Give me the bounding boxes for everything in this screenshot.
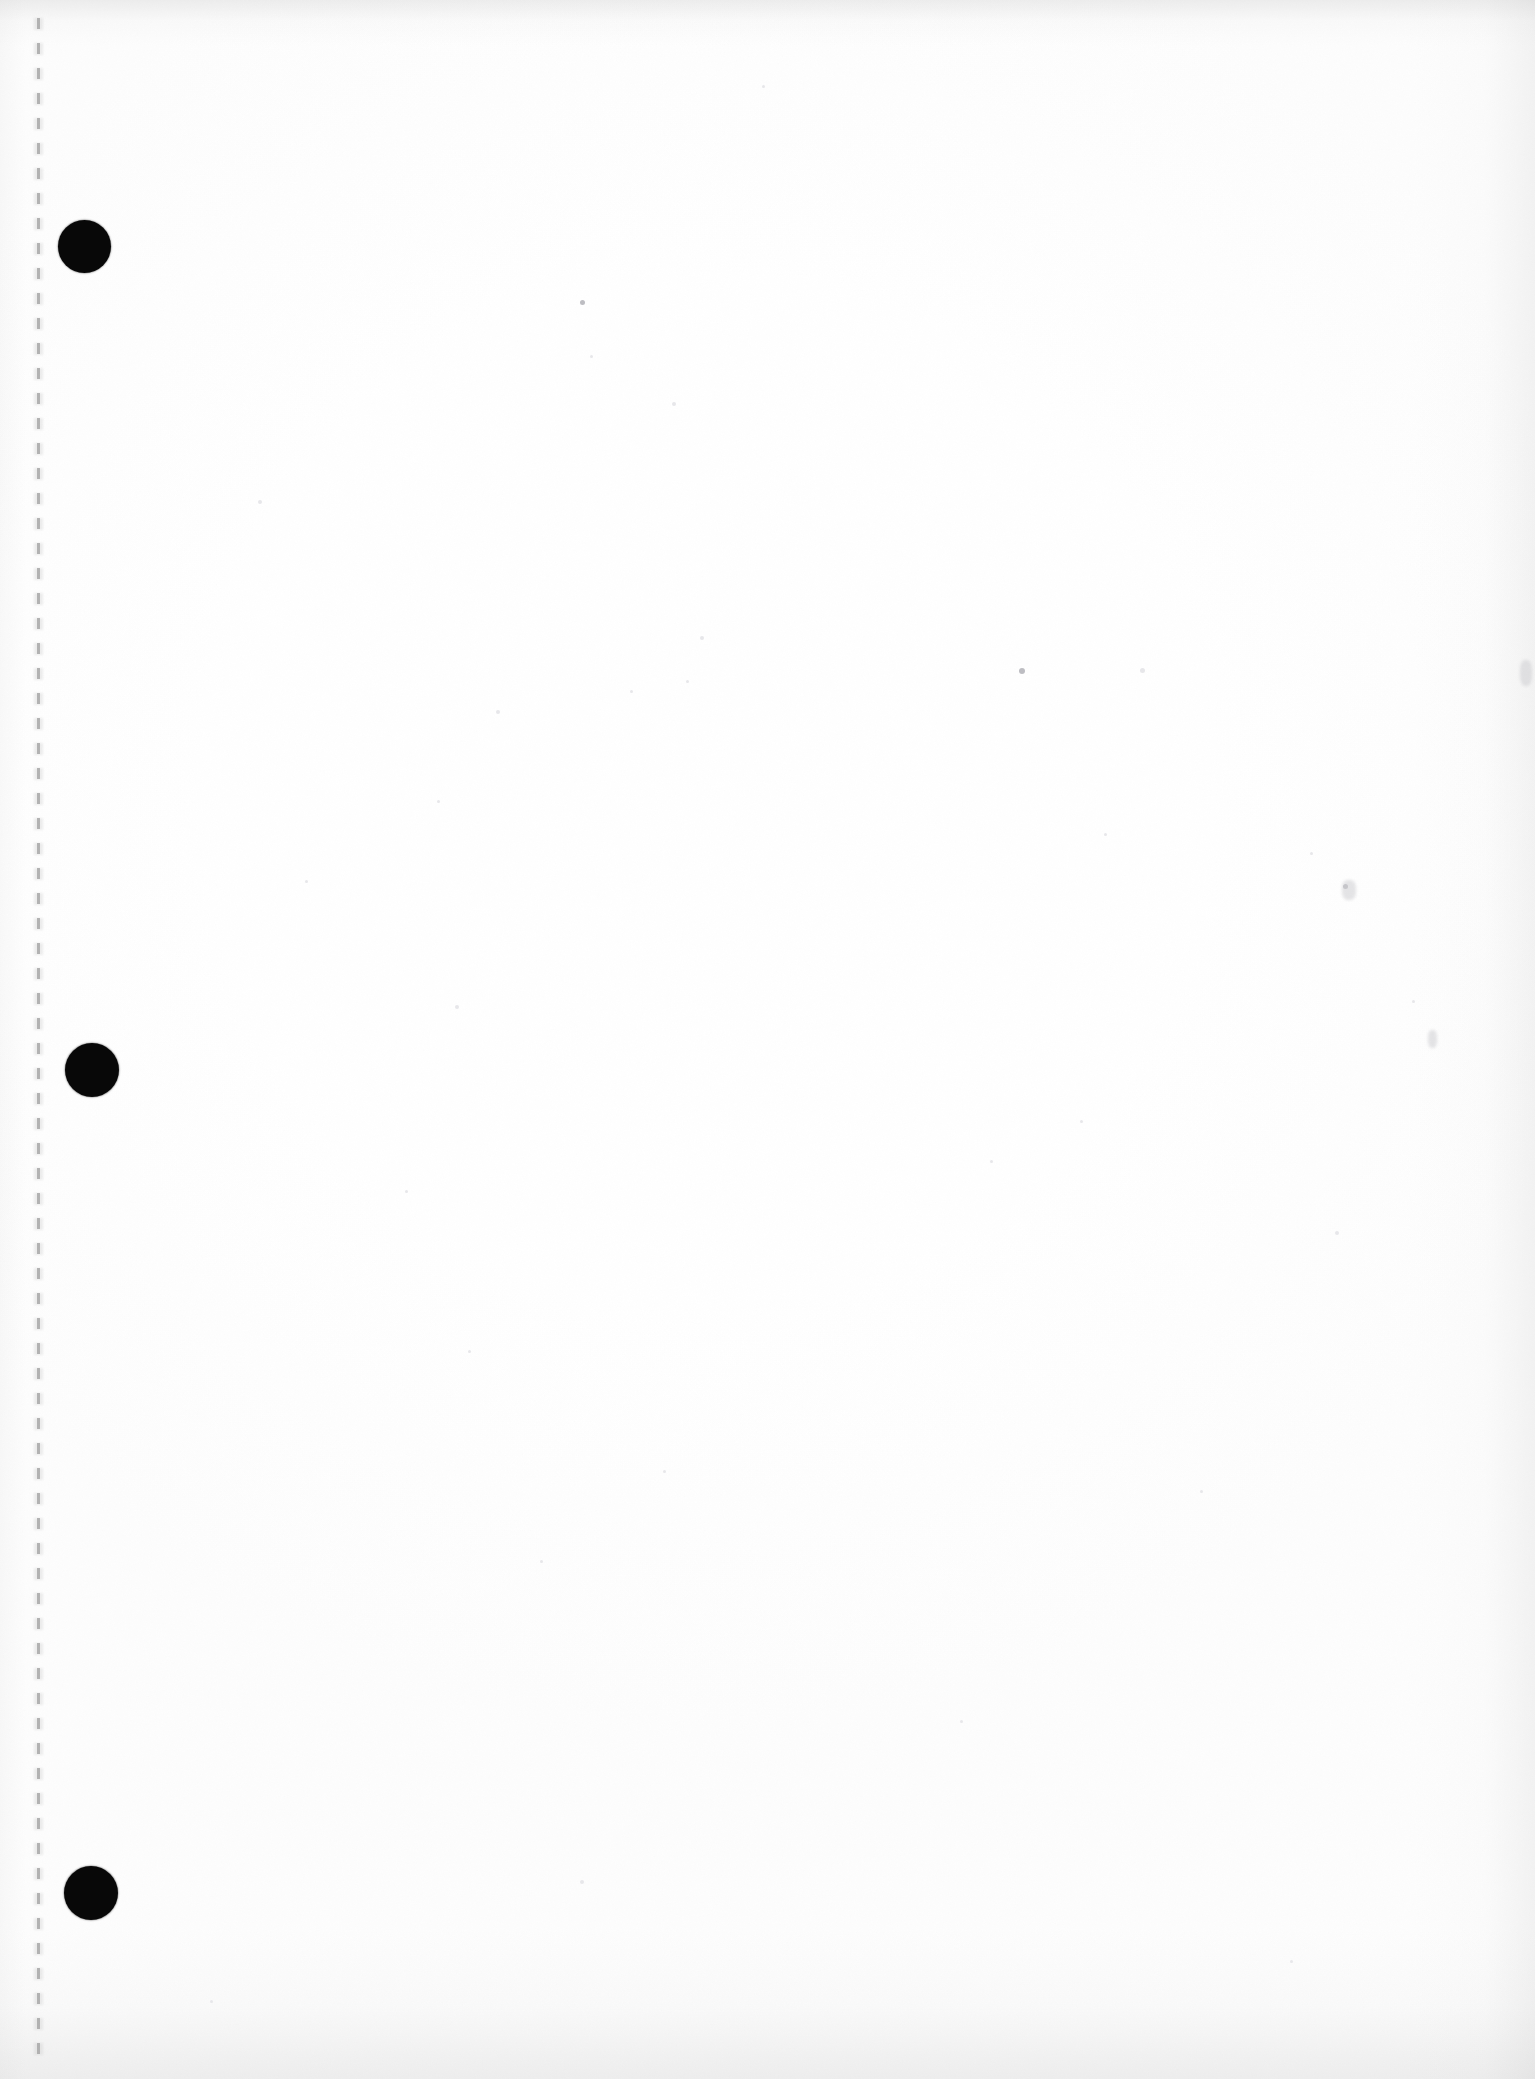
scan-smudge <box>1520 660 1532 686</box>
scan-edge-shade-left <box>0 0 26 2079</box>
page-body-text <box>160 120 1460 1970</box>
scan-speck <box>762 85 765 88</box>
punch-hole-top <box>58 220 111 273</box>
punch-hole-middle <box>65 1043 119 1097</box>
dashed-binding-line <box>37 18 40 2066</box>
scanned-page <box>0 0 1535 2079</box>
scan-speck <box>210 2000 213 2003</box>
scan-edge-shade-top <box>0 0 1535 46</box>
punch-hole-bottom <box>64 1866 118 1920</box>
